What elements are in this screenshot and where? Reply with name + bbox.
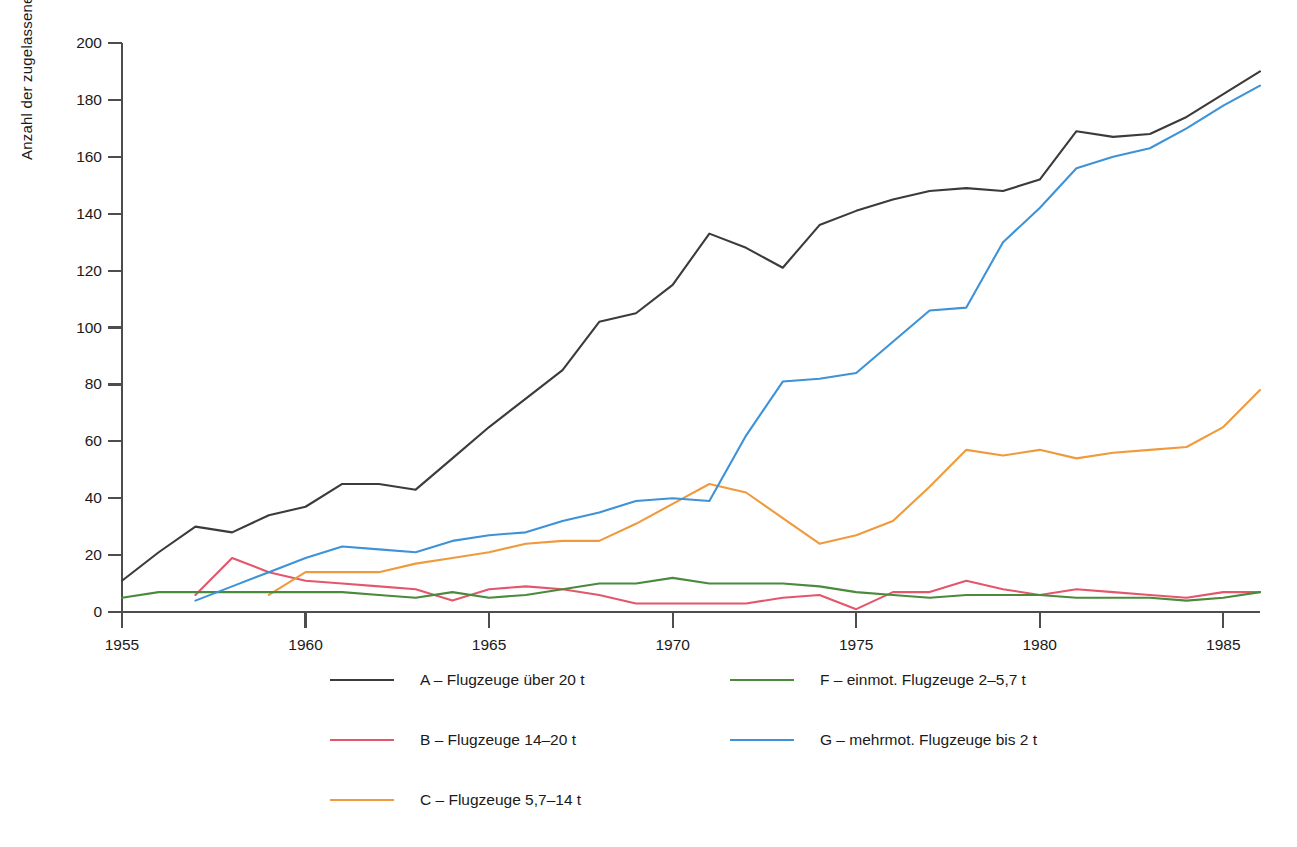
legend-color-swatch-icon	[730, 739, 794, 741]
x-axis-tick-label: 1980	[1010, 636, 1070, 654]
y-axis-tick-label: 20	[56, 546, 102, 564]
legend-item-label: C – Flugzeuge 5,7–14 t	[420, 791, 581, 809]
chart-legend: A – Flugzeuge über 20 tB – Flugzeuge 14–…	[330, 660, 1090, 810]
y-axis-title: Anzahl der zugelassenen Luftfahrzeuge	[18, 0, 35, 160]
line-chart: Anzahl der zugelassenen Luftfahrzeuge 02…	[0, 0, 1297, 847]
series-lines	[122, 71, 1260, 609]
legend-color-swatch-icon	[330, 799, 394, 801]
axis-lines	[108, 43, 1260, 628]
y-axis-tick-label: 100	[56, 319, 102, 337]
series-line-g	[195, 86, 1260, 601]
legend-item[interactable]: G – mehrmot. Flugzeuge bis 2 t	[730, 730, 1037, 750]
x-axis-tick-label: 1970	[643, 636, 703, 654]
y-axis-tick-label: 40	[56, 489, 102, 507]
x-axis-tick-label: 1975	[826, 636, 886, 654]
y-axis-tick-label: 180	[56, 91, 102, 109]
legend-item-label: A – Flugzeuge über 20 t	[420, 671, 585, 689]
y-axis-tick-label: 200	[56, 34, 102, 52]
x-axis-tick-label: 1960	[276, 636, 336, 654]
legend-color-swatch-icon	[330, 739, 394, 741]
x-axis-tick-label: 1985	[1193, 636, 1253, 654]
legend-color-swatch-icon	[730, 679, 794, 681]
legend-item-label: B – Flugzeuge 14–20 t	[420, 731, 576, 749]
legend-item-label: G – mehrmot. Flugzeuge bis 2 t	[820, 731, 1037, 749]
y-axis-tick-label: 80	[56, 375, 102, 393]
legend-item-label: F – einmot. Flugzeuge 2–5,7 t	[820, 671, 1026, 689]
legend-item[interactable]: B – Flugzeuge 14–20 t	[330, 730, 576, 750]
legend-item[interactable]: C – Flugzeuge 5,7–14 t	[330, 790, 581, 810]
series-line-a	[122, 71, 1260, 580]
y-axis-tick-label: 0	[56, 603, 102, 621]
y-axis-tick-label: 120	[56, 262, 102, 280]
x-axis-tick-label: 1955	[92, 636, 152, 654]
legend-color-swatch-icon	[330, 679, 394, 681]
y-axis-tick-label: 140	[56, 205, 102, 223]
legend-item[interactable]: F – einmot. Flugzeuge 2–5,7 t	[730, 670, 1026, 690]
y-axis-tick-label: 160	[56, 148, 102, 166]
legend-item[interactable]: A – Flugzeuge über 20 t	[330, 670, 585, 690]
y-axis-tick-label: 60	[56, 432, 102, 450]
series-line-c	[269, 390, 1260, 595]
x-axis-tick-label: 1965	[459, 636, 519, 654]
